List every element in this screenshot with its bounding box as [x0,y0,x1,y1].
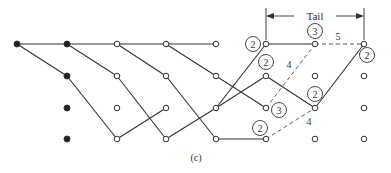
open-node [213,136,219,142]
open-node [312,105,318,111]
filled-node [64,136,70,142]
edges: 454 [17,31,364,139]
edge [17,44,67,76]
trellis-diagram: 454 Tail 2322322 (c) [0,0,391,173]
open-node [312,73,318,79]
open-node [361,73,367,79]
edge [67,76,117,139]
filled-node [64,105,70,111]
open-node [163,41,169,47]
open-node [263,136,269,142]
edge [216,44,266,108]
edge [67,44,117,76]
filled-node [64,73,70,79]
open-node [312,41,318,47]
edge [166,108,216,139]
open-node [361,105,367,111]
filled-node [64,41,70,47]
circled-number: 2 [365,50,370,61]
edge-weight-label: 5 [336,31,341,42]
open-node [163,73,169,79]
open-node [163,136,169,142]
open-node [213,105,219,111]
open-node [312,136,318,142]
open-node [114,136,120,142]
circled-number: 2 [264,57,269,68]
circled-number: 2 [313,89,318,100]
open-node [114,41,120,47]
open-node [213,41,219,47]
circled-number: 2 [258,123,263,134]
filled-node [14,41,20,47]
edge [166,44,216,76]
open-node [361,41,367,47]
dashed-edge [266,44,315,108]
edge-weight-label: 4 [287,59,292,70]
edge-weight-label: 4 [307,116,312,127]
open-node [263,41,269,47]
edge [117,108,166,139]
circled-number: 3 [277,105,282,116]
circled-number: 3 [313,26,318,37]
tail-label: Tail [307,10,324,22]
open-node [114,73,120,79]
open-node [213,73,219,79]
figure-caption: (c) [190,152,201,164]
arrow-right-icon [356,13,364,19]
edge [117,44,166,76]
open-node [263,73,269,79]
edge [117,76,166,139]
edge [166,76,216,139]
edge [315,44,364,108]
arrow-left-icon [266,13,274,19]
open-node [263,105,269,111]
open-node [163,105,169,111]
open-node [361,136,367,142]
open-node [114,105,120,111]
circled-number: 2 [251,39,256,50]
diagram-canvas: 454 Tail 2322322 (c) [0,0,391,173]
